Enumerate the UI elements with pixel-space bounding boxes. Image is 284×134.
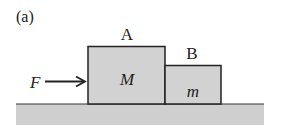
block-b-label: B <box>186 44 197 63</box>
block-a-label: A <box>121 25 134 44</box>
block-a-mass-label: M <box>119 70 135 89</box>
ground-surface <box>16 104 264 125</box>
panel-label: (a) <box>16 8 34 26</box>
block-b: B m <box>165 44 221 104</box>
block-b-mass-label: m <box>187 82 199 101</box>
block-a: A M <box>88 25 165 104</box>
physics-diagram: (a) A M B m F <box>0 0 284 134</box>
force-label: F <box>29 73 41 92</box>
force-arrow: F <box>29 73 85 92</box>
